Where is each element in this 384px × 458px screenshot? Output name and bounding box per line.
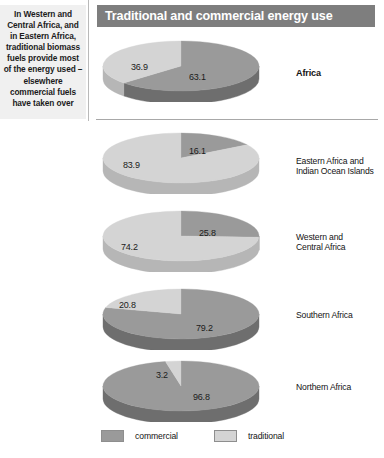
chart-title-bar: Traditional and commercial energy use: [97, 5, 375, 27]
legend-item-commercial: commercial: [101, 430, 178, 442]
region-label-1: Africa: [296, 68, 321, 78]
value-label-commercial: 25.8: [199, 228, 216, 238]
legend-label-commercial: commercial: [135, 431, 178, 441]
region-label-5: Northern Africa: [296, 382, 351, 392]
chart-legend: commercialtraditional: [101, 428, 320, 444]
caption-pullquote: In Western and Central Africa, and in Ea…: [0, 5, 86, 119]
slice-commercial-top: [181, 211, 259, 237]
region-label-4: Southern Africa: [296, 310, 353, 320]
pie-graphic: [101, 210, 281, 272]
value-label-commercial: 16.1: [189, 146, 206, 156]
value-label-commercial: 96.8: [193, 392, 210, 402]
section-divider: [96, 119, 378, 120]
value-label-traditional: 83.9: [123, 160, 140, 170]
pie-graphic: [101, 288, 281, 350]
value-label-traditional: 36.9: [131, 62, 148, 72]
pie-graphic: [101, 40, 281, 102]
energy-use-figure: In Western and Central Africa, and in Ea…: [0, 0, 384, 458]
legend-label-traditional: traditional: [248, 431, 284, 441]
caption-text: In Western and Central Africa, and in Ea…: [3, 9, 83, 109]
value-label-traditional: 3.2: [156, 370, 168, 380]
value-label-commercial: 79.2: [196, 323, 213, 333]
caption-divider: [88, 0, 89, 121]
value-label-commercial: 63.1: [189, 72, 206, 82]
region-label-2: Eastern Africa and Indian Ocean Islands: [296, 156, 374, 177]
pie-graphic: [101, 360, 281, 422]
legend-swatch-commercial: [101, 430, 124, 442]
value-label-traditional: 20.8: [119, 300, 136, 310]
value-label-traditional: 74.2: [121, 242, 138, 252]
legend-swatch-traditional: [214, 430, 237, 442]
legend-item-traditional: traditional: [214, 430, 284, 442]
page-title: Traditional and commercial energy use: [97, 9, 333, 23]
region-label-3: Western and Central Africa: [296, 232, 345, 253]
